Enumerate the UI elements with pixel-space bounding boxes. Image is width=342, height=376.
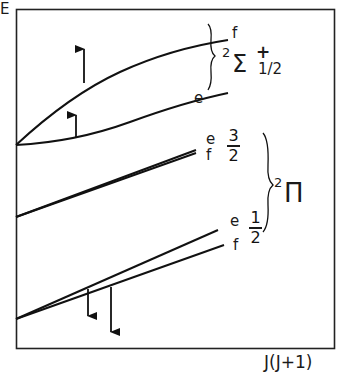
sigma-term-omega: 1/2 xyxy=(258,62,282,77)
pi32-num: 3 xyxy=(228,128,238,144)
pi32-den: 2 xyxy=(228,148,238,164)
sigma-e-label: e xyxy=(194,91,203,106)
x-axis-label: J(J+1) xyxy=(264,354,312,371)
pi-term-symbol: Π xyxy=(284,180,304,206)
pi32-f-label: f xyxy=(206,148,211,163)
sigma-term-plus: + xyxy=(256,44,270,61)
pi12-den: 2 xyxy=(250,230,260,246)
pi12-f-line xyxy=(16,245,224,319)
pi32-e-label: e xyxy=(206,132,215,147)
y-axis-label: E xyxy=(0,2,9,17)
pi-term-multiplicity: 2 xyxy=(274,176,282,189)
pi32-omega-fraction: 3 2 xyxy=(227,128,240,164)
pi32-f-line xyxy=(16,153,196,217)
sigma-f-label: f xyxy=(232,26,237,41)
sigma-term-symbol: Σ xyxy=(232,52,247,76)
sigma-brace xyxy=(208,24,215,90)
pi12-f-label: f xyxy=(233,238,238,253)
pi12-e-line xyxy=(16,230,218,319)
pi12-e-label: e xyxy=(230,214,239,229)
pi12-num: 1 xyxy=(250,210,260,226)
pi-brace xyxy=(263,133,273,232)
pi12-omega-fraction: 1 2 xyxy=(249,210,262,246)
sigma-term-multiplicity: 2 xyxy=(222,46,230,59)
